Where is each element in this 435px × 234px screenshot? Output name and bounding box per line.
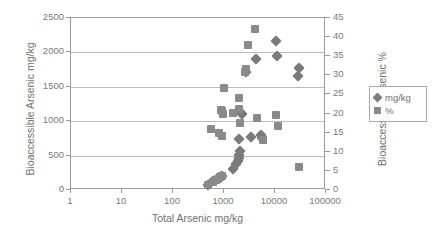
y-axis-left-tick xyxy=(66,51,70,52)
chart-legend: mg/kg % xyxy=(369,86,427,122)
y-axis-right-tick xyxy=(325,17,330,18)
y-axis-right-tick xyxy=(325,151,330,152)
data-point xyxy=(219,110,227,118)
x-axis-tick xyxy=(121,189,122,193)
data-point xyxy=(220,84,228,92)
data-points-layer xyxy=(71,18,324,188)
x-axis-title: Total Arsenic mg/kg xyxy=(70,212,325,224)
x-axis-tick xyxy=(70,189,71,193)
data-point xyxy=(251,54,262,65)
data-point xyxy=(242,65,250,73)
data-point xyxy=(251,25,259,33)
x-axis-tick xyxy=(223,189,224,193)
y-axis-right-tick-label: 20 xyxy=(333,108,359,118)
data-point xyxy=(234,133,245,144)
data-point xyxy=(271,50,282,61)
x-axis-tick xyxy=(274,189,275,193)
x-axis-tick xyxy=(325,189,326,193)
diamond-marker-icon xyxy=(373,93,383,103)
data-point xyxy=(207,125,215,133)
y-axis-right-tick-label: 15 xyxy=(333,127,359,137)
data-point xyxy=(245,131,256,142)
x-axis-tick-label: 1000 xyxy=(212,196,233,206)
data-point xyxy=(259,136,267,144)
y-axis-left-tick xyxy=(66,17,70,18)
data-point xyxy=(244,41,252,49)
x-axis-tick-label: 10000 xyxy=(261,196,287,206)
legend-label-percent: % xyxy=(385,106,393,116)
x-axis-tick-label: 10 xyxy=(116,196,127,206)
y-axis-right-tick-label: 45 xyxy=(333,12,359,22)
legend-label-mgkg: mg/kg xyxy=(385,93,411,103)
data-point xyxy=(235,94,243,102)
data-point xyxy=(236,119,244,127)
y-axis-right-tick-label: 35 xyxy=(333,50,359,60)
data-point xyxy=(218,132,226,140)
y-axis-left-tick xyxy=(66,155,70,156)
plot-area xyxy=(70,17,325,189)
y-axis-right-tick xyxy=(325,74,330,75)
y-axis-right-tick xyxy=(325,55,330,56)
x-axis-tick-label: 1 xyxy=(67,196,72,206)
y-axis-left-title: Bioaccessible Arsenic mg/kg xyxy=(24,19,36,199)
data-point xyxy=(218,172,226,180)
y-axis-right-tick-label: 5 xyxy=(333,165,359,175)
y-axis-right-tick xyxy=(325,132,330,133)
y-axis-right-tick-label: 10 xyxy=(333,146,359,156)
y-axis-right-tick-label: 40 xyxy=(333,31,359,41)
y-axis-left-tick xyxy=(66,86,70,87)
scatter-chart: 0500100015002000250005101520253035404511… xyxy=(0,0,435,234)
data-point xyxy=(274,122,282,130)
x-axis-tick xyxy=(172,189,173,193)
data-point xyxy=(253,114,261,122)
y-axis-right-tick-label: 30 xyxy=(333,70,359,80)
y-axis-right-tick xyxy=(325,93,330,94)
data-point xyxy=(295,163,303,171)
x-axis-tick-label: 100 xyxy=(164,196,180,206)
legend-item-mgkg: mg/kg xyxy=(374,91,422,104)
y-axis-right-tick-label: 25 xyxy=(333,89,359,99)
square-marker-icon xyxy=(374,107,381,114)
data-point xyxy=(272,111,280,119)
y-axis-right-tick xyxy=(325,170,330,171)
data-point xyxy=(235,105,243,113)
y-axis-left-tick xyxy=(66,120,70,121)
y-axis-right-tick xyxy=(325,113,330,114)
x-axis-tick-label: 100000 xyxy=(309,196,341,206)
y-axis-right-tick xyxy=(325,36,330,37)
legend-item-percent: % xyxy=(374,104,422,117)
data-point xyxy=(270,35,281,46)
y-axis-right-tick-label: 0 xyxy=(333,184,359,194)
